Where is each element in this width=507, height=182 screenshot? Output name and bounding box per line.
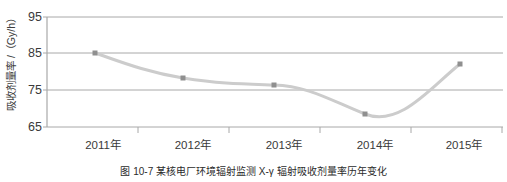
line-chart: 吸收剂量率 /（Gy/h） 95 85 75 65: [0, 0, 507, 160]
x-tick-label-2011: 2011年: [85, 139, 121, 151]
x-tick-label-2015: 2015年: [446, 139, 483, 151]
x-tick-label-2014: 2014年: [357, 139, 394, 151]
x-tick-label-2013: 2013年: [266, 139, 303, 151]
figure-container: 吸收剂量率 /（Gy/h） 95 85 75 65: [0, 0, 507, 182]
x-axis-tick-labels: 2011年 2012年 2013年 2014年 2015年: [0, 0, 507, 182]
figure-caption: 图 10-7 某核电厂环境辐射监测 X-γ 辐射吸收剂量率历年变化: [0, 166, 507, 178]
x-tick-label-2012: 2012年: [175, 139, 212, 151]
